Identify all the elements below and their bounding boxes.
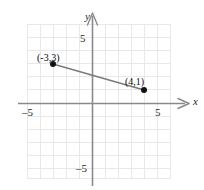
y-axis-label: y [85, 11, 90, 22]
data-point-b [141, 87, 147, 93]
data-point-b-label: (4,1) [125, 77, 144, 87]
y-tick-label-negative-5: –5 [76, 163, 87, 174]
graph-canvas [0, 0, 204, 190]
data-point-a-label: (-3,3) [37, 53, 60, 63]
x-tick-label-negative-5: –5 [22, 107, 33, 118]
x-axis-label: x [193, 96, 198, 107]
coordinate-plane-graph: –5 5 5 –5 x y (-3,3) (4,1) [0, 0, 204, 190]
y-tick-label-positive-5: 5 [80, 33, 86, 44]
graph-background [0, 0, 204, 190]
x-tick-label-positive-5: 5 [155, 107, 161, 118]
